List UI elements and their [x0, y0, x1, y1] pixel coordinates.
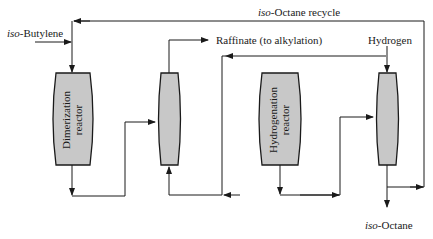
feed-label: iso-Butylene: [7, 27, 63, 39]
product-label: iso-Octane: [365, 219, 413, 231]
separator-2-vessel: [377, 73, 399, 165]
dimerization-reactor-label: Dimerization reactor: [60, 80, 86, 160]
raffinate-line: [169, 40, 208, 73]
hydrogen-label: Hydrogen: [368, 34, 412, 46]
recycle-label: iso-Octane recycle: [258, 6, 340, 18]
hydrogenation-reactor-label: Hydrogenation reactor: [267, 77, 293, 163]
raffinate-label: Raffinate (to alkylation): [216, 34, 322, 46]
separator-1-vessel: [159, 73, 181, 165]
